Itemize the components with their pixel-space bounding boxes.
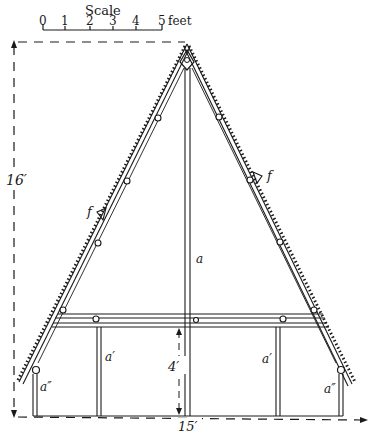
height-label: 16′ — [6, 172, 28, 188]
bracket-right: f — [253, 168, 274, 183]
scale-tick-5: 5 — [158, 14, 166, 28]
outer-post-right: a″ — [324, 367, 345, 417]
width-label: 15′ — [178, 419, 198, 434]
bracket-right-label: f — [266, 168, 274, 183]
outer-post-left: a″ — [33, 367, 53, 417]
arrow-up-icon — [176, 328, 182, 335]
scale-tick-3: 3 — [109, 14, 117, 28]
inner-post-left-label: a′ — [105, 350, 115, 364]
scale-tick-0: 0 — [39, 14, 47, 28]
wall-height-label: 4′ — [167, 359, 179, 374]
inner-post-right: a′ — [262, 327, 280, 416]
outer-post-right-label: a″ — [324, 382, 336, 396]
center-post-label: a — [196, 252, 203, 266]
center-post: a — [185, 68, 203, 416]
arrow-right-icon — [360, 417, 368, 423]
wall-height-dimension: 4′ — [166, 328, 186, 415]
scale-bar: Scale 0 1 2 3 4 5 feet — [39, 3, 192, 30]
right-rafter — [184, 44, 355, 386]
arrow-down-icon — [11, 410, 17, 418]
width-dimension: 15′ — [18, 417, 368, 434]
outer-post-left-label: a″ — [40, 380, 52, 394]
tent-frame-diagram: Scale 0 1 2 3 4 5 feet 16′ 15′ — [0, 0, 377, 434]
arrow-down-icon — [176, 408, 182, 415]
scale-tick-1: 1 — [61, 14, 69, 28]
scale-tick-2: 2 — [86, 14, 94, 28]
scale-tick-4: 4 — [132, 14, 140, 28]
scale-unit: feet — [168, 14, 192, 28]
left-rafter — [17, 44, 190, 384]
bracket-left-label: f — [86, 204, 94, 219]
inner-post-right-label: a′ — [262, 352, 272, 366]
arrow-up-icon — [11, 40, 17, 48]
inner-post-left: a′ — [97, 327, 115, 416]
